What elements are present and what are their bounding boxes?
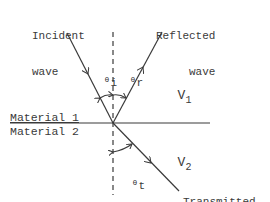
v2-label: V2 — [162, 145, 191, 174]
material-2-label: Material 2 — [10, 126, 79, 138]
material-1-label: Material 1 — [10, 112, 79, 124]
theta-t-arc — [113, 144, 132, 152]
theta-t-label: θt — [123, 165, 145, 192]
theta-r-label: θr — [121, 62, 143, 89]
transmitted-wave-label: Transmitted wave — [183, 172, 256, 202]
theta-r-arc — [113, 95, 126, 98]
v1-label: V1 — [162, 78, 191, 107]
incident-wave-label: Incident wave — [32, 6, 85, 90]
theta-i-label: θi — [95, 62, 117, 89]
theta-i-arc — [100, 95, 113, 98]
